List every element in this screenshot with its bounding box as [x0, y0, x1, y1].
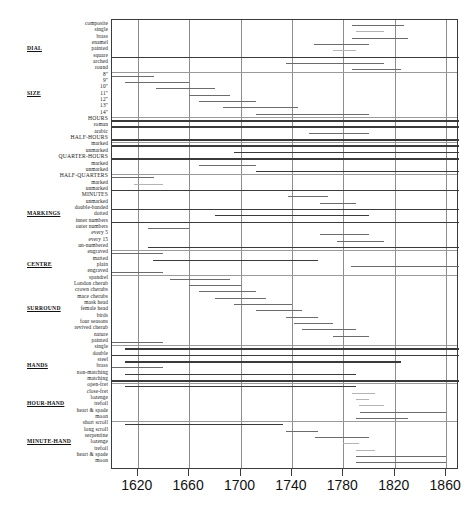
gridline-1700 [241, 20, 242, 468]
x-tick-label: 1780 [327, 477, 358, 493]
section-separator [112, 383, 457, 384]
timeline-bar [148, 247, 459, 249]
timeline-bar [125, 82, 189, 83]
row-label: engraved [0, 249, 108, 254]
row-label: brass [0, 363, 108, 368]
row-label: HALF-QUARTERS [0, 173, 108, 178]
timeline-bar [112, 57, 459, 59]
timeline-bar [112, 76, 154, 77]
timeline-bar [352, 25, 403, 26]
section-separator [112, 345, 457, 346]
x-tick-label: 1860 [430, 477, 461, 493]
timeline-bar [256, 310, 302, 311]
row-label: HOURS [0, 116, 108, 121]
row-label: crown cherubs [0, 287, 108, 292]
timeline-bar [215, 215, 369, 216]
timeline-bar [112, 342, 163, 343]
row-label: double [0, 351, 108, 356]
timeline-bar [125, 424, 283, 425]
timeline-bar [199, 165, 256, 166]
timeline-bar [112, 126, 459, 128]
timeline-bar [294, 323, 333, 324]
timeline-bar [356, 450, 375, 451]
row-label: 12" [0, 97, 108, 102]
row-label: arched [0, 59, 108, 64]
section-separator [112, 117, 457, 118]
gridline-1820 [395, 20, 396, 468]
section-separator [112, 421, 457, 422]
timeline-bar [112, 139, 459, 141]
timeline-bar [112, 177, 154, 178]
x-tick-1620 [137, 469, 138, 476]
timeline-bar [156, 88, 215, 89]
group-label-markings: MARKINGS [27, 211, 60, 217]
x-tick-label: 1700 [224, 477, 255, 493]
timeline-bar [112, 190, 459, 192]
x-tick-1700 [240, 469, 241, 476]
gridline-1620 [138, 20, 139, 468]
row-label: moon [0, 458, 108, 463]
timeline-bar [199, 101, 256, 102]
gridline-1740 [292, 20, 293, 468]
x-tick-1740 [291, 469, 292, 476]
timeline-bar [286, 431, 318, 432]
timeline-bar [199, 291, 256, 292]
timeline-bar [351, 266, 459, 267]
timeline-bar [302, 329, 356, 330]
timeline-bar [112, 158, 459, 160]
row-label: revived cherub [0, 325, 108, 330]
x-tick-1780 [342, 469, 343, 476]
timeline-bar [112, 120, 459, 122]
timeline-bar [112, 355, 459, 357]
row-label: short scroll [0, 420, 108, 425]
x-tick-label: 1620 [121, 477, 152, 493]
x-tick-1860 [445, 469, 446, 476]
section-separator [112, 250, 457, 251]
timeline-bar [170, 279, 230, 280]
x-tick-label: 1740 [275, 477, 306, 493]
row-label: painted [0, 338, 108, 343]
timeline-bar [125, 348, 459, 350]
timeline-bar [256, 171, 459, 172]
row-label: round [0, 65, 108, 70]
timeline-bar [352, 393, 375, 394]
row-label: QUARTER-HOURS [0, 154, 108, 159]
timeline-bar [359, 405, 385, 406]
row-label: 10" [0, 84, 108, 89]
group-label-hour-hand: HOUR-HAND [27, 401, 64, 407]
timeline-bar [189, 95, 230, 96]
row-label: single [0, 344, 108, 349]
timeline-bar [125, 374, 356, 375]
row-label: 13" [0, 103, 108, 108]
timeline-bar [189, 285, 240, 286]
timeline-bar [112, 380, 459, 382]
x-tick-label: 1660 [173, 477, 204, 493]
gridline-1860 [446, 20, 447, 468]
section-separator [112, 72, 457, 73]
timeline-bar [356, 456, 446, 457]
row-label: 11" [0, 91, 108, 96]
timeline-bar [356, 418, 407, 419]
timeline-bar [148, 228, 189, 229]
timeline-bar [356, 462, 446, 463]
timeline-bar [288, 196, 328, 197]
timeline-bar [333, 50, 356, 51]
timeline-bar [337, 241, 385, 242]
timeline-bar [286, 63, 385, 64]
timeline-bar [112, 367, 163, 368]
timeline-bar [223, 107, 299, 108]
timeline-bar [112, 222, 459, 224]
timeline-bar [153, 260, 318, 261]
x-tick-1660 [188, 469, 189, 476]
timeline-bar [320, 203, 356, 204]
row-label: square [0, 53, 108, 58]
row-label: steel [0, 357, 108, 362]
timeline-bar [333, 336, 369, 337]
row-label: composite [0, 21, 108, 26]
timeline-bar [352, 69, 401, 70]
row-label: 8" [0, 72, 108, 77]
row-label: single [0, 27, 108, 32]
chart-root: compositesinglebrassenamelpaintedsquarea… [0, 0, 466, 515]
gridline-1660 [189, 20, 190, 468]
group-label-minute-hand: MINUTE-HAND [27, 439, 71, 445]
